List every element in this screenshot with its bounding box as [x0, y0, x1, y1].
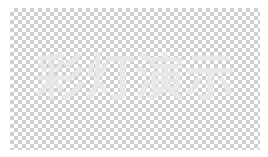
title-text: 彩灯演示	[10, 50, 260, 106]
transparent-canvas: 彩灯演示	[10, 8, 260, 150]
